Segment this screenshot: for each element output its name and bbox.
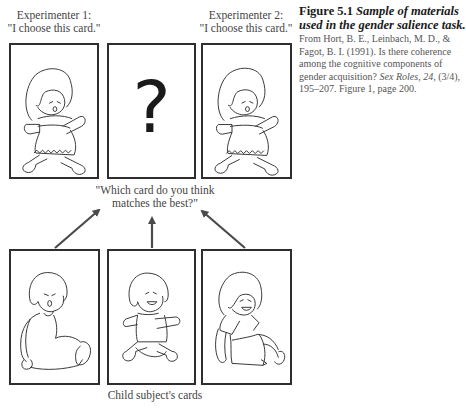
arrow-left-icon [55, 210, 99, 248]
experimenter-2-name: Experimenter 2: [198, 9, 294, 22]
child-cards-caption: Child subject's cards [90, 389, 220, 402]
experimenter-2-card [201, 43, 292, 179]
source-journal: Sex Roles, 24, [380, 71, 436, 82]
girl-sitting-doll-icon [203, 251, 290, 383]
experimenter-2-quote: "I choose this card." [198, 22, 294, 35]
child-card-3 [201, 249, 292, 385]
experimenter-1-name: Experimenter 1: [6, 9, 102, 22]
experimenter-1-label: Experimenter 1: "I choose this card." [6, 9, 102, 35]
girl-running-doll-icon [203, 45, 290, 177]
question-line-2: matches the best?" [90, 197, 220, 210]
girl-running-doll-icon [11, 45, 97, 177]
mystery-card: ? [107, 43, 196, 179]
child-card-2 [107, 249, 196, 385]
figure-title: Figure 5.1 Sample of materials used in t… [299, 5, 466, 32]
question-line-1: "Which card do you think [90, 184, 220, 197]
boy-sitting-doll-icon [11, 251, 98, 383]
boy-running-doll-icon [109, 251, 194, 383]
experimenter-1-quote: "I choose this card." [6, 22, 102, 35]
arrow-right-icon [202, 211, 245, 248]
child-card-1 [9, 249, 100, 385]
experimenter-1-card [9, 43, 99, 179]
figure-number: Figure 5.1 [299, 4, 353, 18]
question-mark-icon: ? [109, 67, 194, 147]
figure-source: From Hort, B. E., Leinbach, M. D., & Fag… [299, 33, 466, 96]
experimenter-2-label: Experimenter 2: "I choose this card." [198, 9, 294, 35]
question-text: "Which card do you think matches the bes… [90, 184, 220, 210]
